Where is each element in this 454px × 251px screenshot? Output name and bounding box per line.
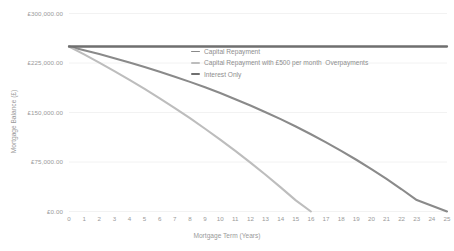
legend-item-label: Interest Only — [204, 70, 241, 79]
legend-swatch-icon — [191, 62, 200, 64]
chart-legend: Capital RepaymentCapital Repayment with … — [191, 47, 368, 79]
y-tick-label: £225,000.00 — [0, 59, 63, 66]
x-axis-title: Mortgage Term (Years) — [0, 232, 454, 239]
legend-item-label: Capital Repayment with £500 per month Ov… — [204, 58, 368, 67]
x-tick-label: 25 — [438, 215, 454, 222]
y-tick-label: £300,000.00 — [0, 10, 63, 17]
y-axis-title: Mortgage Balance (£) — [10, 67, 17, 177]
legend-item-label: Capital Repayment — [204, 47, 260, 56]
legend-item[interactable]: Capital Repayment — [191, 47, 368, 56]
legend-swatch-icon — [191, 51, 200, 53]
legend-swatch-icon — [191, 73, 200, 75]
plot-area — [0, 0, 454, 251]
y-tick-label: £0.00 — [0, 208, 63, 215]
mortgage-balance-line-chart: £0.00£75,000.00£150,000.00£225,000.00£30… — [0, 0, 454, 251]
legend-item[interactable]: Interest Only — [191, 70, 368, 79]
legend-item[interactable]: Capital Repayment with £500 per month Ov… — [191, 58, 368, 67]
